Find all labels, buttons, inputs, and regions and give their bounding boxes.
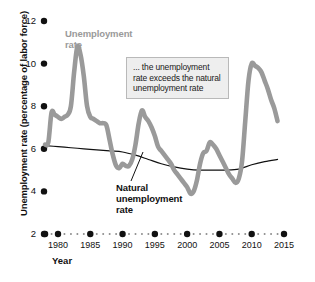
x-axis-major-tick-dot <box>216 231 222 237</box>
x-axis-major-tick-dot <box>281 231 287 237</box>
x-axis-major-tick-dot <box>184 231 190 237</box>
x-axis-major-tick-dot <box>55 231 61 237</box>
y-axis-tick-dot <box>41 18 47 24</box>
series-label-line-1: Unemployment <box>65 28 132 39</box>
x-axis-minor-tick-dot <box>63 233 65 235</box>
series-label-unemployment-rate: Unemployment rate <box>65 28 132 50</box>
x-axis-tick-label: 1990 <box>108 240 138 250</box>
x-axis-minor-tick-dot <box>102 233 104 235</box>
y-axis-tick-label: 8 <box>22 100 36 111</box>
series-label-line-1: Natural <box>116 182 182 193</box>
y-axis-tick-dots <box>41 18 47 237</box>
x-axis-minor-tick-dot <box>83 233 85 235</box>
x-axis-minor-tick-dot <box>76 233 78 235</box>
x-axis-major-tick-dot <box>119 231 125 237</box>
x-axis-minor-tick-dot <box>134 233 136 235</box>
x-axis-tick-label: 2005 <box>204 240 234 250</box>
x-axis-tick-label: 1980 <box>43 240 73 250</box>
x-axis-minor-tick-dot <box>70 233 72 235</box>
series-label-natural-unemployment-rate: Natural unemployment rate <box>116 182 182 215</box>
x-axis-minor-tick-dot <box>167 233 169 235</box>
x-axis-minor-tick-dot <box>199 233 201 235</box>
x-axis-tick-label: 1995 <box>140 240 170 250</box>
x-axis-minor-tick-dot <box>109 233 111 235</box>
series-label-line-2: rate <box>65 39 132 50</box>
y-axis-tick-dot <box>41 103 47 109</box>
unemployment-rate-chart: Unemployment rate (percentage of labor f… <box>0 0 315 282</box>
x-axis-major-tick-dot <box>87 231 93 237</box>
x-axis-minor-tick-dot <box>277 233 279 235</box>
x-axis-minor-tick-dot <box>193 233 195 235</box>
x-axis-minor-tick-dot <box>225 233 227 235</box>
x-axis-minor-tick-dot <box>115 233 117 235</box>
y-axis-tick-label: 4 <box>22 185 36 196</box>
y-axis-tick-dot <box>41 188 47 194</box>
x-axis-minor-tick-dot <box>147 233 149 235</box>
x-axis-major-tick-dot <box>249 231 255 237</box>
y-axis-tick-label: 2 <box>22 228 36 239</box>
y-axis-tick-label: 6 <box>22 143 36 154</box>
x-axis-title: Year <box>52 255 72 266</box>
x-axis-minor-tick-dot <box>160 233 162 235</box>
x-axis-minor-tick-dot <box>244 233 246 235</box>
annotation-line-3: unemployment rate <box>133 83 223 94</box>
x-axis-minor-tick-dot <box>238 233 240 235</box>
annotation-exceeds-note: ... the unemployment rate exceeds the na… <box>126 57 229 99</box>
y-axis-tick-label: 12 <box>22 15 36 26</box>
x-axis-tick-label: 2010 <box>237 240 267 250</box>
x-axis-minor-tick-dot <box>128 233 130 235</box>
y-axis-tick-label: 10 <box>22 58 36 69</box>
x-axis-minor-tick-dot <box>51 233 53 235</box>
x-axis-minor-tick-dot <box>141 233 143 235</box>
x-axis-tick-label: 1985 <box>75 240 105 250</box>
series-label-line-2: unemployment <box>116 193 182 204</box>
x-axis-minor-tick-dot <box>270 233 272 235</box>
series-label-line-3: rate <box>116 204 182 215</box>
x-axis-tick-label: 2000 <box>172 240 202 250</box>
x-axis-minor-tick-dot <box>231 233 233 235</box>
x-axis-minor-tick-dot <box>257 233 259 235</box>
x-axis-tick-label: 2015 <box>269 240 299 250</box>
x-axis-minor-tick-dot <box>206 233 208 235</box>
y-axis-tick-dot <box>41 231 47 237</box>
annotation-line-1: ... the unemployment <box>133 62 223 73</box>
y-axis-tick-dot <box>41 60 47 66</box>
x-axis-dotted-line <box>42 231 287 237</box>
annotation-line-2: rate exceeds the natural <box>133 73 223 84</box>
x-axis-major-tick-dot <box>152 231 158 237</box>
x-axis-minor-tick-dot <box>180 233 182 235</box>
x-axis-minor-tick-dot <box>173 233 175 235</box>
x-axis-minor-tick-dot <box>96 233 98 235</box>
x-axis-minor-tick-dot <box>264 233 266 235</box>
x-axis-minor-tick-dot <box>212 233 214 235</box>
